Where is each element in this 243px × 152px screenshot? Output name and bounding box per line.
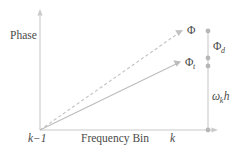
bracket-marker-origin: [206, 128, 211, 133]
solid-phase-line: [40, 64, 176, 130]
annotation-phi-total: Φ: [187, 25, 195, 37]
figure-canvas: [0, 0, 243, 152]
measurement-bracket-group: [206, 29, 211, 133]
y-axis-arrowhead-icon: [37, 9, 42, 16]
phi-total-glyph: Φ: [187, 24, 195, 36]
annotation-omega-k-h: ωkh: [212, 91, 229, 103]
bracket-marker-phi-d-bottom: [206, 56, 211, 61]
omega-suffix-h: h: [224, 90, 230, 102]
phi-d-subscript: d: [221, 46, 225, 55]
bracket-marker-phi-top: [206, 29, 211, 34]
annotation-phi-t: Φt: [185, 57, 196, 69]
phase-frequency-bin-figure: Phase Frequency Bin k−1 k Φ Φt Φd ωkh: [0, 0, 243, 152]
x-tick-label-k: k: [170, 133, 175, 145]
annotation-phi-d: Φd: [213, 41, 225, 53]
x-tick-label-k-minus-1: k−1: [28, 133, 47, 145]
y-axis-label: Phase: [10, 30, 37, 42]
solid-line-arrowhead-icon: [173, 60, 181, 66]
y-axis-group: [37, 9, 42, 130]
x-axis-arrowhead-icon: [212, 127, 219, 132]
omega-glyph: ω: [212, 90, 220, 102]
x-axis-label: Frequency Bin: [81, 133, 149, 145]
phi-t-subscript: t: [193, 62, 195, 71]
dashed-phase-line: [40, 34, 178, 131]
omega-subscript-k: k: [220, 96, 224, 105]
dashed-phase-line-group: [40, 30, 183, 130]
solid-phase-line-group: [40, 60, 181, 130]
bracket-marker-omega-top: [206, 64, 211, 69]
dashed-line-arrowhead-icon: [175, 30, 183, 36]
